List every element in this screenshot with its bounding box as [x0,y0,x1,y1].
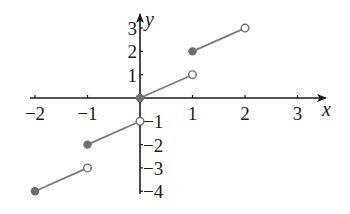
closed-endpoint [136,94,144,102]
x-tick-label: 1 [188,103,198,124]
closed-endpoint [188,47,196,55]
x-tick-label: −1 [77,103,97,124]
y-axis-tick-labels: 123−1−2−3−4 [128,18,164,202]
closed-endpoint [31,187,39,195]
y-axis: 123−1−2−3−4 y [128,8,164,202]
segment-1 [31,164,91,195]
open-endpoint [136,118,144,126]
x-tick-label: 2 [240,103,250,124]
closed-endpoint [83,140,91,148]
x-tick-label: −2 [25,103,45,124]
x-axis-label: x [321,98,331,120]
open-endpoint [189,71,197,79]
open-endpoint [241,24,249,32]
segment-line [193,28,246,51]
segment-line [35,168,88,191]
y-tick-label: 3 [128,18,138,39]
x-axis: −2−1123 x [25,95,331,124]
x-tick-label: 3 [293,103,303,124]
x-axis-tick-labels: −2−1123 [25,103,302,124]
segment-line [140,75,193,98]
y-tick-label: −4 [143,181,164,202]
y-tick-label: −2 [143,135,163,156]
y-axis-label: y [143,8,154,31]
segment-line [88,121,141,144]
segment-4 [188,24,249,55]
step-function-chart: −2−1123 x 123−1−2−3−4 y [0,0,350,214]
y-tick-label: 2 [128,41,138,62]
y-tick-label: 1 [128,65,138,86]
y-tick-label: −3 [143,158,163,179]
y-tick-label: −1 [143,111,163,132]
open-endpoint [84,164,92,172]
